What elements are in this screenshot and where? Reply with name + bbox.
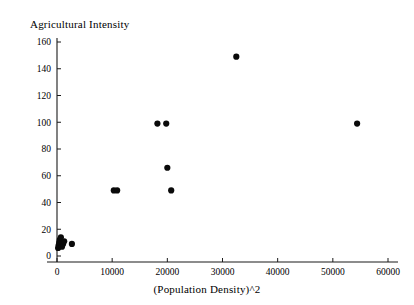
x-axis-tick-label: 20000 <box>155 267 179 277</box>
data-point <box>354 120 360 126</box>
x-axis-tick-label: 30000 <box>211 267 235 277</box>
data-point <box>233 54 239 60</box>
data-point <box>114 187 120 193</box>
x-axis-tick-label: 10000 <box>100 267 124 277</box>
scatter-plot: Agricultural Intensity 02040608010012014… <box>0 0 414 305</box>
y-axis-tick-label: 100 <box>37 118 52 128</box>
data-point <box>154 120 160 126</box>
data-point <box>168 187 174 193</box>
data-point <box>61 238 67 244</box>
data-point <box>163 120 169 126</box>
x-axis-tick-label: 40000 <box>266 267 290 277</box>
y-axis-tick-label: 160 <box>37 37 52 47</box>
x-axis-tick-label: 50000 <box>321 267 345 277</box>
x-axis-tick-label: 0 <box>55 267 60 277</box>
data-point <box>69 241 75 247</box>
y-axis-tick-label: 20 <box>42 225 52 235</box>
plot-canvas: 0204060801001201401600100002000030000400… <box>0 0 414 305</box>
x-axis-tick-label: 60000 <box>376 267 400 277</box>
y-axis-tick-label: 60 <box>42 171 52 181</box>
y-axis-tick-label: 120 <box>37 91 52 101</box>
y-axis-tick-label: 40 <box>42 198 52 208</box>
data-point <box>164 165 170 171</box>
x-axis-label: (Population Density)^2 <box>0 283 414 295</box>
y-axis-tick-label: 80 <box>42 144 52 154</box>
y-axis-tick-label: 0 <box>46 251 51 261</box>
y-axis-tick-label: 140 <box>37 64 52 74</box>
